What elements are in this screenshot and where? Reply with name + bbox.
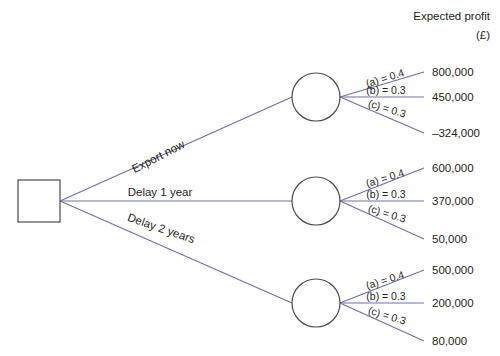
probability-label-delay-1-year-0: (a) = 0.4 bbox=[364, 166, 405, 189]
branch-label-delay-2-years: Delay 2 years bbox=[126, 211, 197, 245]
payoff-value-delay-1-year-2: 50,000 bbox=[432, 233, 467, 245]
decision-tree-diagram: Expected profit (£) Export now(a) = 0.48… bbox=[0, 0, 500, 356]
chance-node-delay-1-year[interactable] bbox=[292, 177, 340, 225]
probability-label-delay-1-year-1: (b) = 0.3 bbox=[366, 188, 406, 200]
chance-node-export-now[interactable] bbox=[292, 73, 340, 121]
payoff-value-delay-1-year-0: 600,000 bbox=[432, 162, 474, 174]
payoff-value-delay-2-years-2: 80,000 bbox=[432, 335, 467, 347]
probability-label-export-now-1: (b) = 0.3 bbox=[366, 84, 406, 96]
expected-profit-header-line1: Expected profit bbox=[413, 10, 491, 22]
payoff-value-export-now-0: 800,000 bbox=[432, 66, 474, 78]
payoff-value-delay-2-years-1: 200,000 bbox=[432, 297, 474, 309]
branch-label-delay-1-year: Delay 1 year bbox=[128, 186, 193, 198]
probability-label-delay-2-years-1: (b) = 0.3 bbox=[366, 290, 406, 302]
expected-profit-header-currency: (£) bbox=[476, 29, 490, 41]
branch-line-delay-2-years[interactable] bbox=[60, 201, 292, 303]
payoff-value-export-now-1: 450,000 bbox=[432, 91, 474, 103]
probability-label-delay-2-years-2: (c) = 0.3 bbox=[367, 304, 408, 327]
decision-node[interactable] bbox=[18, 180, 60, 222]
branch-label-export-now: Export now bbox=[130, 138, 187, 176]
payoff-value-delay-2-years-0: 500,000 bbox=[432, 264, 474, 276]
probability-label-delay-2-years-0: (a) = 0.4 bbox=[364, 268, 405, 291]
probability-label-export-now-2: (c) = 0.3 bbox=[367, 97, 408, 120]
payoff-value-export-now-2: –324,000 bbox=[432, 127, 480, 139]
chance-node-delay-2-years[interactable] bbox=[292, 279, 340, 327]
probability-label-delay-1-year-2: (c) = 0.3 bbox=[367, 202, 408, 225]
nodes-layer bbox=[18, 73, 340, 327]
payoff-value-delay-1-year-1: 370,000 bbox=[432, 195, 474, 207]
